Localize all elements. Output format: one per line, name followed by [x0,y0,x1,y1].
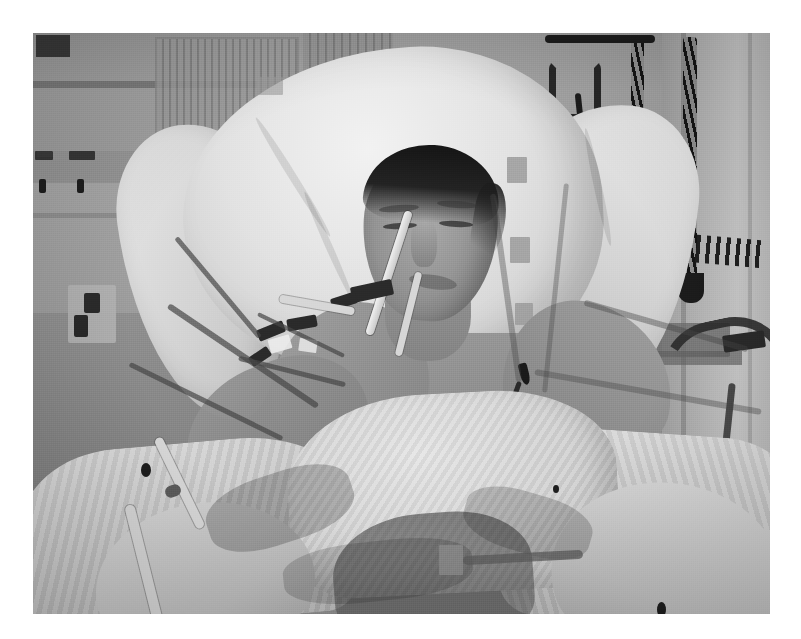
pillow-tape-tab [510,237,530,263]
wall-label-box [36,35,70,57]
socket-opening [74,315,88,337]
leg-tube-clip [439,545,463,575]
blanket-marker [141,463,151,477]
outlet-port [35,151,53,160]
outlet-knob [77,179,84,193]
outlet-knob [39,179,46,193]
wall-bracket [545,35,655,43]
nose-shading [411,219,437,267]
pillow-tape-tab [257,77,283,95]
power-socket-plate [68,285,116,343]
screenshot-canvas: Intensive care unit bedside Patient lyin… [0,0,801,639]
iv-line-cluster [247,311,367,401]
icu-patient-photograph [33,33,770,614]
pillow-tape-tab [507,157,527,183]
blanket-marker [553,485,559,493]
socket-opening [84,293,100,313]
blanket-marker [657,602,666,614]
outlet-port [69,151,95,160]
